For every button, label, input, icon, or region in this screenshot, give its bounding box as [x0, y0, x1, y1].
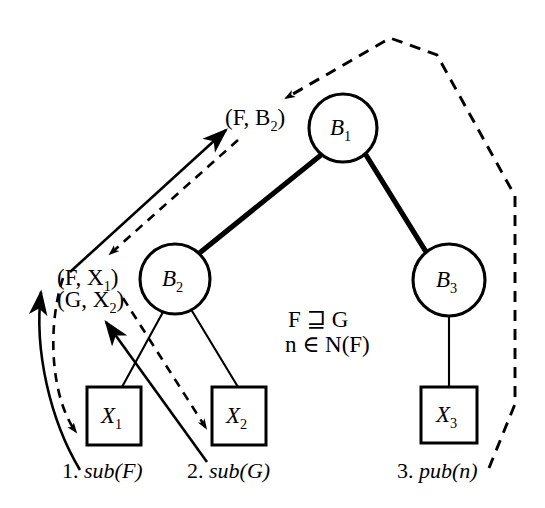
edge-b2-x1 — [122, 312, 163, 387]
edge-b1-b2 — [197, 155, 321, 255]
step-caption-1: 1. sub(F) — [62, 460, 143, 482]
flow-sub-f-request — [39, 292, 80, 470]
message-label-f-b2: (F, B2) — [225, 106, 285, 133]
node-label-x2: X2 — [226, 404, 247, 431]
diagram-canvas — [0, 0, 545, 508]
node-label-b2: B2 — [162, 267, 183, 294]
condition-line-1: F ⊒ G — [288, 308, 348, 331]
node-label-x3: X3 — [436, 403, 457, 430]
node-label-x1: X1 — [101, 404, 122, 431]
edge-b2-x2 — [192, 311, 238, 387]
step-caption-2: 2. sub(G) — [187, 460, 270, 482]
condition-line-2: n ∈ N(F) — [285, 333, 370, 356]
box-nodes — [87, 387, 477, 445]
edge-b1-b3 — [366, 155, 428, 255]
tree-message-flow-diagram: B1 B2 B3 X1 X2 X3 (F, B2) (F, X1) (G, X2… — [0, 0, 545, 508]
node-label-b1: B1 — [330, 116, 351, 143]
circle-nodes — [140, 94, 485, 316]
step-caption-3: 3. pub(n) — [397, 460, 478, 482]
message-label-g-x2: (G, X2) — [57, 288, 124, 315]
node-label-b3: B3 — [436, 268, 457, 295]
